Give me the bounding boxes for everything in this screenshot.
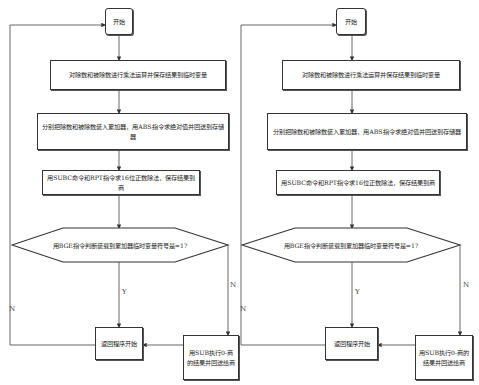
multiply-step: 对除数和被除数进行乘法运算并保存结果到临时变量 <box>50 60 226 90</box>
start-node: 开始 <box>105 8 133 35</box>
return-node: 返回程序开始 <box>95 327 143 360</box>
sign-decision: 用BGE指令判断装载到累加器临时变量符号是=1? <box>251 241 451 250</box>
negate-node: 用SUB执行0-商的结果并回送给商 <box>415 335 473 380</box>
abs-step: 分别把除数和被除数装入累加器，用ABS指令求绝对值并回送到存储器 <box>267 113 467 150</box>
subc-step: 用SUBC命令和RPT指令求16位正数除法，保存结果到商 <box>276 170 440 195</box>
yes-label: Y <box>355 288 360 296</box>
return-node: 返回程序开始 <box>325 327 378 360</box>
no-label-left: N <box>9 305 15 313</box>
multiply-step: 对除数和被除数进行乘法运算并保存结果到临时变量 <box>282 60 460 90</box>
no-label-right: N <box>230 281 236 289</box>
sign-decision: 用BGE指令判断装载到累加器临时变量符号是=1? <box>20 241 220 250</box>
no-label-left: N <box>240 305 246 313</box>
no-label-right: N <box>463 281 469 289</box>
start-node: 开始 <box>336 8 366 35</box>
abs-step: 分别把除数和被除数装入累加器，用ABS指令求绝对值并回送到存储器 <box>37 113 229 150</box>
negate-node: 用SUB执行0-商的结果并回送给商 <box>183 335 239 380</box>
subc-step: 用SUBC命令和RPT指令求16位正数除法，保存结果到商 <box>42 170 200 195</box>
yes-label: Y <box>122 288 127 296</box>
